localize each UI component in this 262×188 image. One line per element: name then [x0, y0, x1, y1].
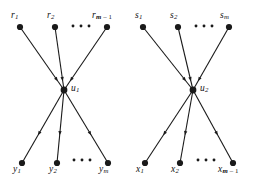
right-out-edge-xm1 — [193, 90, 233, 163]
right-out-arrow-xm1 — [214, 131, 217, 135]
right-bottom-ellipsis-dot — [205, 159, 208, 162]
right-out-arrow-x1 — [163, 131, 167, 135]
edges-layer — [20, 27, 233, 163]
left-out-arrow-y1 — [38, 131, 42, 135]
graph-canvas — [0, 0, 262, 188]
right-node-s2 — [175, 24, 181, 30]
left-top-ellipsis-dot — [72, 25, 75, 28]
right-in-arrow-sm — [198, 77, 202, 81]
left-bottom-ellipsis-dot — [73, 159, 76, 162]
right-label-xm1: xm – 1 — [218, 165, 239, 175]
right-label-x2: x2 — [171, 165, 179, 175]
right-label-s1: s1 — [135, 11, 143, 21]
arrows-layer — [38, 77, 218, 136]
left-node-rm1 — [104, 24, 110, 30]
right-out-edge-x1 — [145, 90, 193, 163]
left-label-ym: ym — [99, 165, 109, 175]
left-label-u1: u1 — [71, 84, 80, 94]
right-label-x1: x1 — [136, 165, 144, 175]
left-bottom-ellipsis-dot — [89, 159, 92, 162]
left-top-ellipsis-dot — [80, 25, 83, 28]
left-bottom-ellipsis-dot — [81, 159, 84, 162]
right-bottom-ellipsis-dot — [213, 159, 216, 162]
left-hub-u1 — [61, 87, 68, 94]
figure-root: r1r2rm – 1y1y2ymu1s1s2smx1x2xm – 1u2 — [0, 0, 262, 188]
left-node-r1 — [17, 24, 23, 30]
left-out-arrow-ym — [88, 131, 92, 135]
right-node-sm — [226, 24, 232, 30]
right-bottom-ellipsis-dot — [197, 159, 200, 162]
right-hub-u2 — [190, 87, 197, 94]
nodes-layer — [17, 24, 236, 166]
right-label-u2: u2 — [200, 84, 209, 94]
right-label-s2: s2 — [170, 11, 178, 21]
right-out-edge-x2 — [180, 90, 193, 163]
right-top-ellipsis-dot — [195, 25, 198, 28]
left-label-y1: y1 — [13, 165, 21, 175]
right-node-s1 — [140, 24, 146, 30]
left-label-y2: y2 — [49, 165, 57, 175]
left-label-rm1: rm – 1 — [92, 11, 112, 21]
right-top-ellipsis-dot — [211, 25, 214, 28]
left-label-r1: r1 — [11, 11, 19, 21]
left-node-r2 — [52, 24, 58, 30]
left-out-edge-ym — [64, 90, 108, 163]
left-label-r2: r2 — [47, 11, 55, 21]
right-label-sm: sm — [220, 11, 229, 21]
left-top-ellipsis-dot — [88, 25, 91, 28]
right-top-ellipsis-dot — [203, 25, 206, 28]
